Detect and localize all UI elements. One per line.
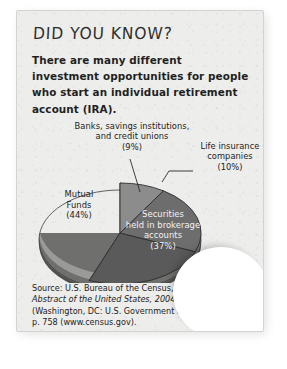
pie-label-mutual-value: (44%) bbox=[43, 210, 115, 221]
did-you-know-card: DID YOU KNOW? There are many different i… bbox=[16, 10, 264, 332]
source-suffix: (Washington, DC: U.S. Government Printin… bbox=[32, 306, 240, 327]
page-title: DID YOU KNOW? bbox=[33, 24, 174, 43]
pie-label-banks-line1: Banks, savings institutions, bbox=[73, 121, 191, 131]
pie-label-banks-line2: and credit unions bbox=[73, 131, 191, 141]
pie-label-life-insurance: Life insurance companies (10%) bbox=[193, 141, 264, 172]
card-inner: DID YOU KNOW? There are many different i… bbox=[17, 11, 263, 331]
source-citation: Source: U.S. Bureau of the Census, Stati… bbox=[32, 283, 248, 329]
leader-line-life bbox=[162, 171, 193, 182]
card-body-text: There are many different investment oppo… bbox=[32, 52, 250, 117]
source-prefix: Source: U.S. Bureau of the Census, bbox=[32, 283, 176, 293]
pie-chart: Banks, savings institutions, and credit … bbox=[17, 119, 263, 283]
pie-label-life-line1: Life insurance bbox=[193, 141, 264, 151]
pie-label-life-line2: companies bbox=[193, 151, 264, 161]
pie-label-mutual-funds: Mutual Funds (44%) bbox=[43, 189, 115, 221]
pie-label-banks: Banks, savings institutions, and credit … bbox=[73, 121, 191, 152]
pie-label-securities-value: (37%) bbox=[117, 241, 209, 252]
screenshot-root: DID YOU KNOW? There are many different i… bbox=[0, 0, 287, 369]
pie-label-mutual-line1: Mutual bbox=[43, 189, 115, 200]
pie-label-life-value: (10%) bbox=[193, 162, 264, 172]
pie-label-securities-line1: Securities bbox=[117, 209, 209, 220]
pie-label-mutual-line2: Funds bbox=[43, 200, 115, 211]
pie-label-securities: Securities held in brokerage accounts (3… bbox=[117, 209, 209, 251]
pie-label-banks-value: (9%) bbox=[73, 142, 191, 152]
pie-label-securities-line2: held in brokerage bbox=[117, 220, 209, 231]
pie-label-securities-line3: accounts bbox=[117, 230, 209, 241]
